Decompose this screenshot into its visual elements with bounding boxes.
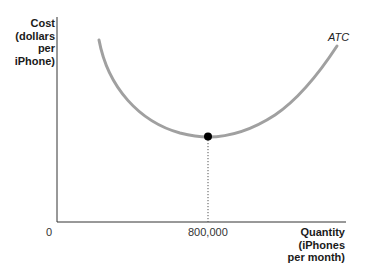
x-tick-zero: 0 [46, 226, 52, 238]
atc-label: ATC [328, 31, 349, 43]
atc-curve [99, 40, 337, 137]
y-axis-label: Cost (dollars per iPhone) [15, 17, 55, 67]
x-tick-800000: 800,000 [188, 226, 228, 238]
minimum-point-dot [204, 133, 212, 141]
x-axis-label: Quantity (iPhones per month) [288, 226, 345, 264]
atc-chart: Cost (dollars per iPhone) Quantity (iPho… [0, 0, 367, 276]
